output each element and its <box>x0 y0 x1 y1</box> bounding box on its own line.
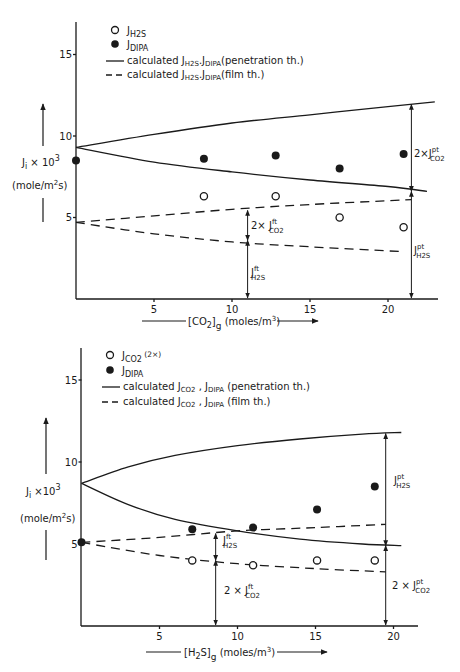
annotations: 2×JptCO2 JptH2S 2× JftCO2 JftH2S <box>250 146 445 282</box>
svg-text:Ji × 103: Ji × 103 <box>21 154 60 171</box>
svg-text:calculated JH2S.JDIPA(film th: calculated JH2S.JDIPA(film th.) <box>127 69 264 82</box>
open-data-point <box>371 557 378 564</box>
y-tick-label: 15 <box>59 49 72 60</box>
svg-text:Ji ×103: Ji ×103 <box>25 483 61 500</box>
svg-text:JptH2S: JptH2S <box>393 473 411 490</box>
y-tick-label: 10 <box>65 457 78 468</box>
y-axis-label: Ji × 103 (mole/m2s) <box>12 104 67 222</box>
open-data-point <box>336 214 343 221</box>
dashed-curve <box>76 222 404 251</box>
x-tick-label: 20 <box>387 631 400 642</box>
filled-data-point <box>249 524 257 532</box>
x-axis-label: [H2S]g (moles/m3) <box>146 646 327 662</box>
svg-text:JptH2S: JptH2S <box>413 243 431 260</box>
svg-text:2 × JptCO2: 2 × JptCO2 <box>392 578 430 595</box>
svg-text:2 × JftCO2: 2 × JftCO2 <box>224 583 260 600</box>
dimension-arrows <box>248 104 412 298</box>
top-chart-panel: 510152051015 Ji × 103 (mole/m2s) [CO2]g … <box>12 22 445 331</box>
svg-text:[CO2]g (moles/m3): [CO2]g (moles/m3) <box>188 315 280 331</box>
x-tick-label: 5 <box>151 304 157 315</box>
x-tick-label: 15 <box>309 631 322 642</box>
x-tick-label: 10 <box>231 631 244 642</box>
solid-curve <box>82 483 402 545</box>
y-tick-label: 5 <box>66 212 72 223</box>
filled-circle-icon <box>106 366 114 374</box>
y-tick-label: 10 <box>59 131 72 142</box>
figure: 510152051015 Ji × 103 (mole/m2s) [CO2]g … <box>0 0 460 672</box>
solid-curve <box>82 433 402 484</box>
open-circle-icon <box>112 27 119 34</box>
x-axis-label: [CO2]g (moles/m3) <box>142 315 318 331</box>
svg-text:calculated JCO2 , JDIPA (pene: calculated JCO2 , JDIPA (penetration th.… <box>123 381 310 394</box>
y-tick-label: 15 <box>65 375 78 386</box>
dimension-arrows <box>216 433 386 625</box>
filled-data-point <box>272 152 280 160</box>
axis-ticks: 510152051015 <box>65 375 400 643</box>
dashed-curve <box>82 524 386 542</box>
axis-ticks: 510152051015 <box>59 49 394 315</box>
open-data-point <box>189 557 196 564</box>
svg-text:(mole/m2s): (mole/m2s) <box>12 179 67 191</box>
svg-text:JH2S: JH2S <box>126 25 146 39</box>
svg-text:JDIPA: JDIPA <box>126 39 149 53</box>
filled-data-point <box>371 483 379 491</box>
svg-text:(mole/m2s): (mole/m2s) <box>20 512 75 524</box>
open-circle-icon <box>107 352 114 359</box>
y-tick-label: 5 <box>71 539 77 550</box>
x-tick-label: 20 <box>382 304 395 315</box>
svg-text:calculated JH2S.JDIPA(penetra: calculated JH2S.JDIPA(penetration th.) <box>127 55 304 68</box>
filled-data-point <box>72 156 80 164</box>
solid-curve <box>76 147 427 191</box>
open-data-point <box>313 557 320 564</box>
x-tick-label: 5 <box>156 631 162 642</box>
svg-text:[H2S]g (moles/m3): [H2S]g (moles/m3) <box>184 646 275 662</box>
filled-data-point <box>188 525 196 533</box>
open-data-point <box>272 193 279 200</box>
svg-text:JCO2 (2×): JCO2 (2×) <box>121 350 161 364</box>
solid-curve <box>76 102 435 148</box>
dashed-curve <box>76 200 411 223</box>
svg-text:JDIPA: JDIPA <box>121 365 144 379</box>
legend: JCO2 (2×) JDIPA calculated JCO2 , JDIPA … <box>102 350 310 409</box>
filled-data-point <box>200 155 208 163</box>
svg-text:2× JftCO2: 2× JftCO2 <box>251 218 284 235</box>
filled-data-point <box>400 150 408 158</box>
svg-text:JftH2S: JftH2S <box>250 265 266 282</box>
x-tick-label: 15 <box>304 304 317 315</box>
x-tick-label: 10 <box>226 304 239 315</box>
open-data-point <box>400 224 407 231</box>
filled-data-point <box>336 165 344 173</box>
open-data-point <box>200 193 207 200</box>
annotations: JptH2S 2 × JptCO2 JftH2S 2 × JftCO2 <box>222 473 430 600</box>
data-series <box>78 433 402 572</box>
filled-data-point <box>313 506 321 514</box>
svg-text:2×JptCO2: 2×JptCO2 <box>414 146 445 163</box>
y-axis-label: Ji ×103 (mole/m2s) <box>20 418 75 560</box>
legend: JH2S JDIPA calculated JH2S.JDIPA(penetra… <box>106 25 304 82</box>
filled-data-point <box>78 538 86 546</box>
chart-canvas: 510152051015 Ji × 103 (mole/m2s) [CO2]g … <box>0 0 460 672</box>
open-data-point <box>250 562 257 569</box>
svg-text:JftH2S: JftH2S <box>222 533 238 550</box>
bottom-chart-panel: 510152051015 Ji ×103 (mole/m2s) [H2S]g (… <box>20 348 430 662</box>
svg-text:calculated JCO2 , JDIPA (film: calculated JCO2 , JDIPA (film th.) <box>123 396 271 409</box>
filled-circle-icon <box>111 40 119 48</box>
